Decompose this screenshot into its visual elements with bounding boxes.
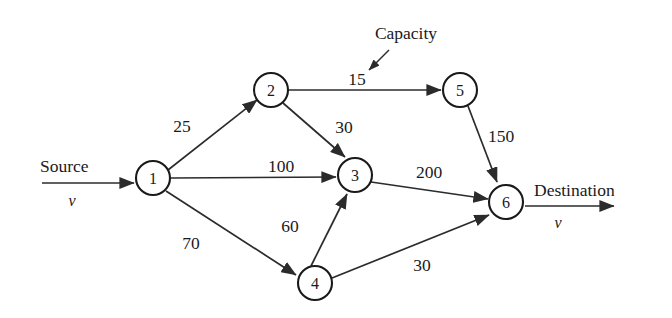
capacity-label-1-2: 25 (173, 116, 191, 136)
capacity-label-3-6: 200 (416, 162, 443, 182)
capacity-label-1-4: 70 (182, 233, 200, 253)
node-group: 1 2 3 4 5 6 (136, 73, 523, 300)
node-3[interactable]: 3 (338, 158, 372, 192)
capacity-label-2-3: 30 (335, 117, 353, 137)
capacity-annotation-label: Capacity (375, 23, 437, 43)
diagram-svg: 1 2 3 4 5 6 25 (0, 0, 672, 318)
capacity-label-4-6: 30 (413, 255, 431, 275)
edge-3-to-6 (371, 182, 488, 199)
terminal-arrows (42, 183, 614, 206)
node-1[interactable]: 1 (136, 161, 170, 195)
edge-4-to-6 (332, 215, 489, 278)
node-1-label: 1 (149, 170, 157, 187)
node-4[interactable]: 4 (298, 266, 332, 300)
node-2-label: 2 (267, 82, 275, 99)
capacity-label-1-3: 100 (268, 156, 295, 176)
edge-4-to-3 (311, 194, 347, 266)
capacity-label-2-5: 15 (348, 69, 366, 89)
capacity-label-5-6: 150 (488, 126, 515, 146)
network-flow-diagram: 1 2 3 4 5 6 25 (0, 0, 672, 318)
node-4-label: 4 (311, 275, 319, 292)
edge-group (166, 90, 497, 278)
destination-label: Destination (534, 180, 615, 200)
node-6[interactable]: 6 (489, 185, 523, 219)
node-6-label: 6 (502, 194, 510, 211)
capacity-pointer-arrow (369, 50, 389, 70)
node-3-label: 3 (351, 167, 359, 184)
edge-1-to-3 (171, 177, 336, 178)
destination-flow-variable: v (554, 214, 562, 231)
terminal-text-group: Source v Destination v (40, 156, 615, 231)
node-5[interactable]: 5 (443, 73, 477, 107)
source-flow-variable: v (68, 192, 76, 209)
capacity-label-4-3: 60 (281, 216, 299, 236)
node-5-label: 5 (456, 82, 464, 99)
node-2[interactable]: 2 (254, 73, 288, 107)
source-label: Source (40, 156, 89, 176)
